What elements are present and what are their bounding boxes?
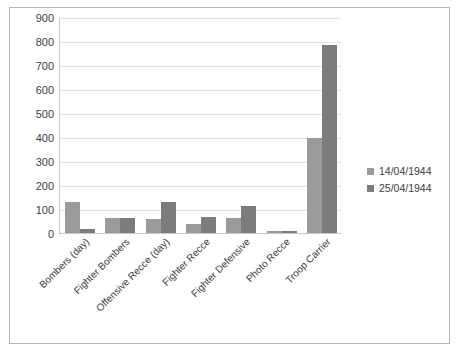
bar xyxy=(80,229,95,233)
legend-item-label: 14/04/1944 xyxy=(379,166,432,177)
y-tick-label: 600 xyxy=(12,85,54,96)
y-tick-label: 100 xyxy=(12,205,54,216)
bar xyxy=(120,218,135,233)
chart-frame: 9008007006005004003002001000 Bombers (da… xyxy=(9,7,450,344)
y-tick-label: 700 xyxy=(12,61,54,72)
bar xyxy=(226,218,241,233)
bar-group xyxy=(181,18,221,233)
bar xyxy=(201,217,216,233)
y-tick-label: 900 xyxy=(12,13,54,24)
chart-legend: 14/04/194425/04/1944 xyxy=(367,163,447,197)
legend-item-label: 25/04/1944 xyxy=(379,183,432,194)
plot-area xyxy=(59,18,341,234)
bar xyxy=(322,45,337,233)
bar xyxy=(307,138,322,233)
bar-group xyxy=(141,18,181,233)
bar-group xyxy=(302,18,342,233)
legend-swatch-icon xyxy=(367,185,374,192)
bar xyxy=(146,219,161,233)
bar xyxy=(161,202,176,233)
bar-group xyxy=(60,18,100,233)
legend-item[interactable]: 14/04/1944 xyxy=(367,163,447,180)
bar xyxy=(282,231,297,233)
bar-group xyxy=(100,18,140,233)
y-tick-label: 200 xyxy=(12,181,54,192)
y-tick-label: 500 xyxy=(12,109,54,120)
x-axis-tick-labels: Bombers (day)Fighter BombersOffensive Re… xyxy=(10,236,449,341)
bar-group xyxy=(221,18,261,233)
bar-group xyxy=(261,18,301,233)
bar xyxy=(186,224,201,233)
y-tick-label: 400 xyxy=(12,133,54,144)
legend-item[interactable]: 25/04/1944 xyxy=(367,180,447,197)
bar xyxy=(105,218,120,233)
y-tick-label: 300 xyxy=(12,157,54,168)
bar xyxy=(267,231,282,233)
y-axis-tick-labels: 9008007006005004003002001000 xyxy=(10,18,54,234)
legend-swatch-icon xyxy=(367,168,374,175)
bar xyxy=(241,206,256,233)
bar xyxy=(65,202,80,233)
y-tick-label: 800 xyxy=(12,37,54,48)
x-tick-label-text: Offensive Recce (day) xyxy=(94,236,172,314)
